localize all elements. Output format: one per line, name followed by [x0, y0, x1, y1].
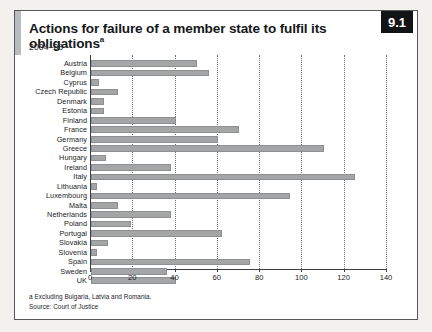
category-label: Hungary [15, 153, 90, 162]
category-label: France [15, 125, 90, 134]
bar [91, 70, 209, 77]
bar [91, 60, 197, 67]
bar-row [91, 210, 397, 219]
x-axis-tick-label: 20 [128, 273, 136, 282]
bar [91, 221, 131, 228]
category-label: Ireland [15, 163, 90, 172]
category-label: Portugal [15, 229, 90, 238]
figure-page: Actions for failure of a member state to… [0, 0, 432, 332]
bar-row [91, 182, 397, 191]
category-label: Spain [15, 257, 90, 266]
bar-row [91, 276, 397, 285]
bar-row [91, 257, 397, 266]
bar [91, 98, 104, 105]
bar [91, 164, 171, 171]
figure-number-badge: 9.1 [381, 11, 413, 33]
bar-row [91, 135, 397, 144]
bar-row [91, 68, 397, 77]
bar-row [91, 153, 397, 162]
bar [91, 183, 97, 190]
category-label: Estonia [15, 106, 90, 115]
bars-region: 020406080100120140 [90, 55, 398, 277]
bar [91, 89, 118, 96]
category-axis-labels: AustriaBelgiumCyprusCzech RepublicDenmar… [15, 59, 90, 286]
bar-row [91, 238, 397, 247]
footnote-block: a Excluding Bulgaria, Latvia and Romania… [29, 292, 151, 312]
bar [91, 202, 118, 209]
category-label: Denmark [15, 97, 90, 106]
bar [91, 193, 290, 200]
category-label: Netherlands [15, 210, 90, 219]
x-axis-tick-label: 140 [380, 273, 393, 282]
bar-row [91, 229, 397, 238]
bar [91, 240, 108, 247]
category-label: Sweden [15, 267, 90, 276]
footnote-a: a Excluding Bulgaria, Latvia and Romania… [29, 292, 151, 302]
bar-row [91, 248, 397, 257]
page-title-text: Actions for failure of a member state to… [29, 21, 327, 51]
bar-series [91, 59, 397, 286]
bar [91, 126, 239, 133]
x-axis-tick-label: 100 [295, 273, 308, 282]
bar-row [91, 97, 397, 106]
bar [91, 230, 222, 237]
bar [91, 211, 171, 218]
figure-frame: Actions for failure of a member state to… [14, 10, 418, 320]
x-axis-tick-label: 120 [337, 273, 350, 282]
bar-row [91, 59, 397, 68]
bar [91, 79, 99, 86]
x-axis-tick-label: 80 [255, 273, 263, 282]
bar [91, 259, 250, 266]
category-label: Poland [15, 219, 90, 228]
footnote-source: Source: Court of Justice [29, 302, 151, 312]
title-footnote-marker: a [100, 35, 104, 44]
bar-row [91, 78, 397, 87]
category-label: Italy [15, 172, 90, 181]
x-axis-tick-label: 40 [170, 273, 178, 282]
bar [91, 174, 355, 181]
bar [91, 145, 324, 152]
category-label: Finland [15, 116, 90, 125]
x-axis-tick-label: 0 [88, 273, 92, 282]
category-label: Lithuania [15, 182, 90, 191]
chart-subtitle: 2004–08 [29, 42, 63, 52]
category-label: UK [15, 276, 90, 285]
bar-row [91, 219, 397, 228]
chart-plot-area: AustriaBelgiumCyprusCzech RepublicDenmar… [15, 55, 417, 285]
x-axis-tick-label: 60 [213, 273, 221, 282]
category-label: Luxembourg [15, 191, 90, 200]
category-label: Czech Republic [15, 87, 90, 96]
category-label: Germany [15, 135, 90, 144]
bar [91, 117, 176, 124]
bar-row [91, 191, 397, 200]
bar-row [91, 172, 397, 181]
bar-row [91, 125, 397, 134]
bar [91, 136, 218, 143]
category-label: Greece [15, 144, 90, 153]
bar-row [91, 116, 397, 125]
bar [91, 155, 106, 162]
category-label: Slovenia [15, 248, 90, 257]
bar-row [91, 144, 397, 153]
bar [91, 108, 104, 115]
bar-row [91, 87, 397, 96]
bar-row [91, 163, 397, 172]
bar-row [91, 267, 397, 276]
category-label: Malta [15, 201, 90, 210]
category-label: Cyprus [15, 78, 90, 87]
category-label: Austria [15, 59, 90, 68]
bar-row [91, 201, 397, 210]
bar-row [91, 106, 397, 115]
left-accent-bar [15, 11, 21, 55]
category-label: Belgium [15, 68, 90, 77]
bar [91, 249, 97, 256]
page-title: Actions for failure of a member state to… [29, 22, 381, 51]
category-label: Slovakia [15, 238, 90, 247]
